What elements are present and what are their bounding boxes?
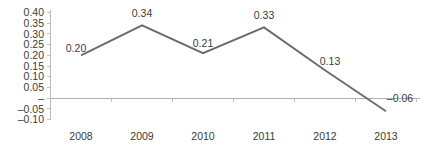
- data-label: 0.33: [254, 9, 275, 21]
- data-label: 0.34: [132, 7, 153, 19]
- data-label: 0.20: [66, 42, 87, 54]
- data-labels: 0.20 0.34 0.21 0.33 0.13 –0.06: [66, 7, 414, 104]
- chart-canvas: 0.40 0.35 0.30 0.25 0.20 0.15 0.10 0.05 …: [0, 0, 426, 152]
- x-tick-label: 2009: [130, 130, 154, 142]
- x-tick-label: 2010: [191, 130, 215, 142]
- y-axis-ticks: [47, 13, 51, 120]
- x-tick-label: 2013: [374, 130, 398, 142]
- y-tick-label: –0.10: [18, 113, 44, 125]
- line-chart: 0.40 0.35 0.30 0.25 0.20 0.15 0.10 0.05 …: [0, 0, 426, 152]
- x-tick-label: 2011: [253, 130, 276, 142]
- x-axis-tick-labels: 2008 2009 2010 2011 2012 2013: [69, 130, 398, 142]
- x-tick-label: 2008: [69, 130, 93, 142]
- data-label: 0.21: [193, 37, 214, 49]
- data-label: 0.13: [320, 55, 341, 67]
- x-tick-label: 2012: [313, 130, 337, 142]
- data-label: –0.06: [387, 92, 413, 104]
- y-axis-tick-labels: 0.40 0.35 0.30 0.25 0.20 0.15 0.10 0.05 …: [18, 6, 44, 125]
